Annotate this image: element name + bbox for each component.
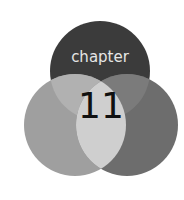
venn-diagram-graphic: chapter 11 xyxy=(0,0,184,200)
chapter-emblem: chapter 11 xyxy=(0,0,184,200)
chapter-label: chapter xyxy=(71,48,130,66)
chapter-number: 11 xyxy=(78,85,124,126)
